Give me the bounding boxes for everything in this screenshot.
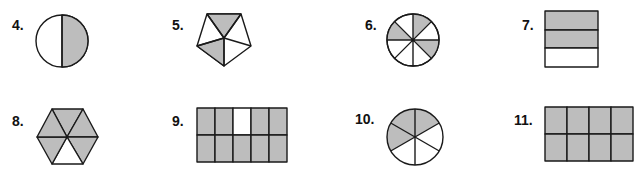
fraction-shapes-canvas [0,0,638,183]
shape-7-rectangle-thirds [545,11,598,67]
grid-cell [269,108,287,135]
grid-cell [197,108,215,135]
grid-cell [567,107,589,134]
grid-cell [567,134,589,161]
shape-4-circle-halves [36,15,88,67]
shape-9-grid-5x2 [197,108,287,162]
grid-cell [215,135,233,162]
grid-cell [545,107,567,134]
grid-cell [589,134,611,161]
shape-6-circle-eighths [387,14,439,66]
grid-cell [215,108,233,135]
grid-cell [251,108,269,135]
shape-11-grid-4x2 [545,107,633,161]
shaded-right-half [62,15,88,67]
grid-cell [611,134,633,161]
grid-cell-unshaded [233,108,251,135]
center-dot [411,38,415,42]
shaded-row-2 [545,30,598,48]
grid-cell [233,135,251,162]
shape-8-hexagon [37,109,98,164]
grid-cell [611,107,633,134]
grid-cell [197,135,215,162]
shaded-row-1 [545,11,598,30]
unshaded-row-3 [545,48,598,67]
grid-cell [251,135,269,162]
grid-cell [589,107,611,134]
shape-10-circle-sixths [387,109,443,165]
grid-cell [545,134,567,161]
shape-5-pentagon [197,14,251,66]
grid-cell [269,135,287,162]
